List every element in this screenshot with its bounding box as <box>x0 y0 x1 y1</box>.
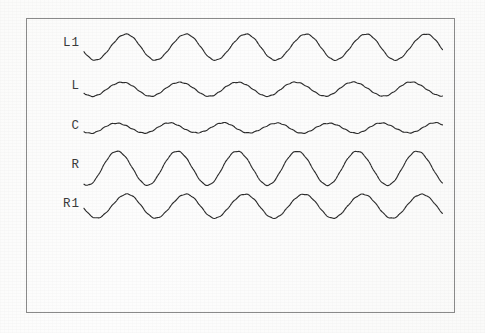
plot-frame-border <box>26 18 455 313</box>
channel-label-c: C <box>34 118 80 133</box>
channel-label-l1: L1 <box>34 35 80 50</box>
channel-label-r1: R1 <box>34 196 80 211</box>
scanned-page: L1 L C R R1 <box>0 0 485 333</box>
channel-label-r: R <box>34 157 80 172</box>
channel-label-l: L <box>34 78 80 93</box>
